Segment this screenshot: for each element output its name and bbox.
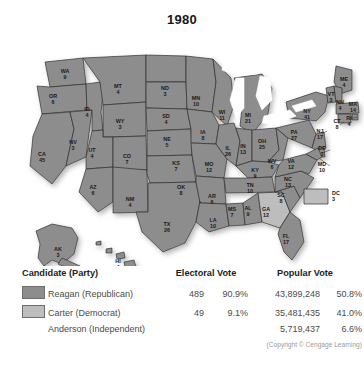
dc-swatch-box[interactable] <box>304 189 328 204</box>
state-label-LA: LA10 <box>209 217 216 229</box>
popular-percent: 41.0% <box>320 303 362 322</box>
state-KS[interactable] <box>147 129 192 156</box>
popular-percent: 50.8% <box>320 284 362 303</box>
state-label-PA: PA27 <box>290 129 297 141</box>
popular-votes: 5,719,437 <box>248 322 320 336</box>
state-CA[interactable] <box>30 112 74 184</box>
header-candidate: Candidate (Party) <box>22 268 164 284</box>
candidate-name: Reagan (Republican) <box>48 284 164 303</box>
state-label-CT: CT8 <box>333 118 341 130</box>
header-electoral-vote: Electoral Vote <box>164 268 248 284</box>
state-label-RI: RI4 <box>346 115 352 127</box>
state-label-VA: VA12 <box>287 158 294 170</box>
lake-superior-icon <box>222 57 268 76</box>
color-swatch-cell <box>22 284 48 303</box>
map-svg: WA9OR6CA45NV3ID4MT4WY3UT4CO7AZ6NM4ND3SD4… <box>0 26 364 266</box>
candidate-name: Carter (Democrat) <box>48 303 164 322</box>
state-AK-aleutians[interactable] <box>58 258 80 266</box>
state-NE[interactable] <box>146 108 191 131</box>
popular-votes: 35,481,435 <box>248 303 320 322</box>
us-electoral-map: WA9OR6CA45NV3ID4MT4WY3UT4CO7AZ6NM4ND3SD4… <box>0 26 364 266</box>
state-label-MI: MI21 <box>245 112 251 124</box>
state-label-WI: WI11 <box>219 109 226 121</box>
candidate-name: Anderson (Independent) <box>48 322 164 336</box>
table-header-row: Candidate (Party) Electoral Vote Popular… <box>22 268 362 284</box>
state-label-NC: NC13 <box>284 176 292 188</box>
state-label-TN: TN10 <box>246 182 253 194</box>
legend-swatch-reagan <box>22 286 45 299</box>
state-label-IN: IN13 <box>240 143 246 155</box>
header-popular-vote: Popular Vote <box>248 268 362 284</box>
state-label-FL: FL17 <box>283 233 290 245</box>
state-HI-bigisland[interactable] <box>124 260 137 266</box>
electoral-map-figure: 1980 <box>0 0 364 374</box>
table-row: Reagan (Republican)48990.9%43,899,24850.… <box>22 284 362 303</box>
state-RI[interactable] <box>352 114 358 120</box>
popular-percent: 6.6% <box>320 322 362 336</box>
state-ND[interactable] <box>146 55 186 82</box>
state-WY[interactable] <box>103 102 146 137</box>
popular-votes: 43,899,248 <box>248 284 320 303</box>
state-label-IL: IL26 <box>225 145 231 157</box>
state-label-NY: NY41 <box>303 108 311 120</box>
color-swatch-cell <box>22 303 48 322</box>
state-AK[interactable] <box>36 224 78 266</box>
electoral-percent <box>204 322 248 336</box>
electoral-percent: 9.1% <box>204 303 248 322</box>
state-label-TX: TX26 <box>164 221 171 233</box>
results-table: Candidate (Party) Electoral Vote Popular… <box>22 268 362 336</box>
state-OR[interactable] <box>37 84 87 114</box>
electoral-percent: 90.9% <box>204 284 248 303</box>
state-label-OH: OH25 <box>258 138 266 150</box>
state-label-GA: GA12 <box>262 206 270 218</box>
color-swatch-cell <box>22 322 48 336</box>
state-HI-oahu[interactable] <box>106 248 112 253</box>
table-row: Carter (Democrat)499.1%35,481,43541.0% <box>22 303 362 322</box>
electoral-votes <box>164 322 204 336</box>
figure-title: 1980 <box>0 12 364 27</box>
state-label-CA: CA45 <box>38 151 46 163</box>
electoral-votes: 489 <box>164 284 204 303</box>
copyright-notice: (Copyright © Cengage Learning) <box>22 336 362 348</box>
leader-lines <box>320 117 357 166</box>
state-HI-kauai[interactable] <box>96 241 101 245</box>
table-row: Anderson (Independent)5,719,4376.6% <box>22 322 362 336</box>
map-landmass <box>30 55 359 266</box>
electoral-votes: 49 <box>164 303 204 322</box>
state-MN[interactable] <box>186 56 216 112</box>
results-legend: Candidate (Party) Electoral Vote Popular… <box>0 268 364 348</box>
state-label-HI: HI4 <box>115 258 121 266</box>
legend-swatch-carter <box>22 305 45 318</box>
state-label-DC: DC3 <box>332 190 340 202</box>
